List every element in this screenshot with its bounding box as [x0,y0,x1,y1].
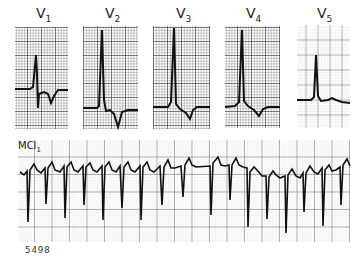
lead-panel-v1 [15,27,68,129]
figure-number: 5498 [25,245,51,255]
lead-panel-v4 [225,26,280,128]
rhythm-strip-label: MCl1 [18,140,41,154]
lead-panel-v5 [297,25,350,128]
lead-panel-v3 [153,26,210,129]
lead-panel-v2 [83,26,138,129]
ecg-figure [0,0,364,260]
rhythm-strip-mcl1 [18,140,350,242]
